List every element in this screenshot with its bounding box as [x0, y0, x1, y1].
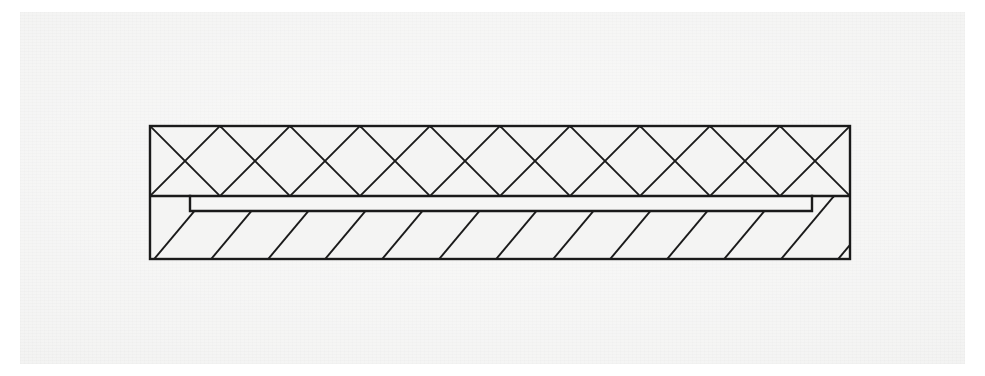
figure-root — [0, 0, 985, 376]
cross-section-drawing — [0, 0, 985, 376]
upper-layer-crosshatch — [150, 126, 850, 196]
embedded-insert-fill — [190, 196, 812, 211]
